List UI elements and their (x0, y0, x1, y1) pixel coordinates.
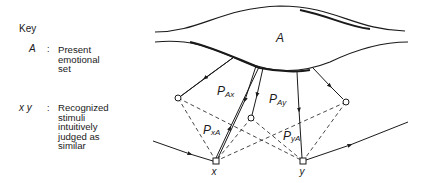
node-x-label: x (211, 166, 218, 177)
label-main: P (203, 123, 211, 137)
node-y-label: y (299, 166, 306, 177)
region-a-lower-boundary (155, 41, 408, 70)
pathways (153, 57, 408, 161)
emotional-set-diagram: A x y PAx PAy PxA PyA (0, 0, 426, 183)
node-y-square (300, 158, 306, 164)
region-a-label: A (275, 31, 284, 45)
label-p-xa: PxA (203, 123, 220, 137)
label-sub: xA (210, 128, 220, 137)
stimulus-node-left (175, 95, 181, 101)
label-main: P (269, 92, 277, 106)
label-sub: Ay (276, 98, 287, 107)
label-p-ya: PyA (283, 129, 300, 143)
upper-boundary-emphasis (300, 10, 370, 29)
label-main: P (217, 84, 225, 98)
lower-boundary-emphasis (190, 42, 310, 71)
label-p-ax: PAx (217, 84, 235, 99)
label-main: P (283, 129, 291, 143)
label-sub: Ax (224, 90, 235, 99)
node-x-square (213, 158, 219, 164)
stimulus-node-right (343, 99, 349, 105)
label-sub: yA (290, 134, 300, 143)
label-p-ay: PAy (269, 92, 287, 107)
stimulus-node-middle (248, 115, 254, 121)
